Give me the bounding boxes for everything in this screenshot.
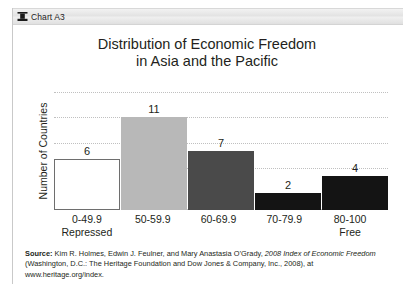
bar-value-label: 7 xyxy=(218,137,224,149)
x-tick-4: 80-100 Free xyxy=(317,213,383,238)
bar-group: 2 xyxy=(255,92,321,210)
source-text-1: Kim R. Holmes, Edwin J. Feulner, and Mar… xyxy=(53,249,265,258)
y-axis-label: Number of Countries xyxy=(37,92,49,210)
x-tick-3: 70-79.9 xyxy=(251,213,317,238)
bar xyxy=(54,159,120,210)
source-note: Source: Kim R. Holmes, Edwin J. Feulner,… xyxy=(25,249,391,280)
bar-group: 4 xyxy=(322,92,388,210)
bar-value-label: 2 xyxy=(285,179,291,191)
bar xyxy=(188,151,254,210)
page-title-line-1: Distribution of Economic Freedom xyxy=(25,36,389,53)
x-tick-range: 80-100 xyxy=(334,213,367,225)
bar-value-label: 6 xyxy=(84,145,90,157)
x-axis-labels: 0-49.9 Repressed 50-59.9 60-69.9 70-79.9… xyxy=(54,213,383,238)
x-tick-2: 60-69.9 xyxy=(186,213,252,238)
source-url: www.heritage.org/index. xyxy=(25,270,104,279)
page-title: Distribution of Economic Freedom in Asia… xyxy=(25,36,389,70)
x-tick-range: 0-49.9 xyxy=(72,213,102,225)
bar-value-label: 4 xyxy=(352,162,358,174)
chart-header-band: Chart A3 xyxy=(13,8,403,25)
plot-area: Number of Countries 6 11 7 xyxy=(18,92,390,210)
bar-value-label: 11 xyxy=(148,103,159,115)
left-margin-rule xyxy=(12,8,13,284)
x-tick-range: 70-79.9 xyxy=(266,213,302,225)
page-title-line-2: in Asia and the Pacific xyxy=(25,53,389,70)
bar xyxy=(121,117,187,210)
chart-header-title: Chart A3 xyxy=(31,12,65,22)
plot-canvas: 6 11 7 2 4 xyxy=(54,92,388,210)
bar xyxy=(255,193,321,210)
x-tick-range: 60-69.9 xyxy=(201,213,237,225)
bar-group: 7 xyxy=(188,92,254,210)
source-label: Source: xyxy=(25,249,53,258)
bar-series: 6 11 7 2 4 xyxy=(54,92,388,210)
x-tick-sublabel: Repressed xyxy=(54,226,120,239)
source-text-2: (Washington, D.C.: The Heritage Foundati… xyxy=(25,259,313,268)
source-title-italic: 2008 Index of Economic Freedom xyxy=(265,249,376,258)
x-tick-0: 0-49.9 Repressed xyxy=(54,213,120,238)
bar-group: 11 xyxy=(121,92,187,210)
x-tick-range: 50-59.9 xyxy=(135,213,171,225)
x-tick-sublabel: Free xyxy=(317,226,383,239)
x-tick-1: 50-59.9 xyxy=(120,213,186,238)
bar-chart-icon xyxy=(17,11,28,22)
bar-group: 6 xyxy=(54,92,120,210)
bar xyxy=(322,176,388,210)
chart-page: Chart A3 Distribution of Economic Freedo… xyxy=(0,0,403,284)
